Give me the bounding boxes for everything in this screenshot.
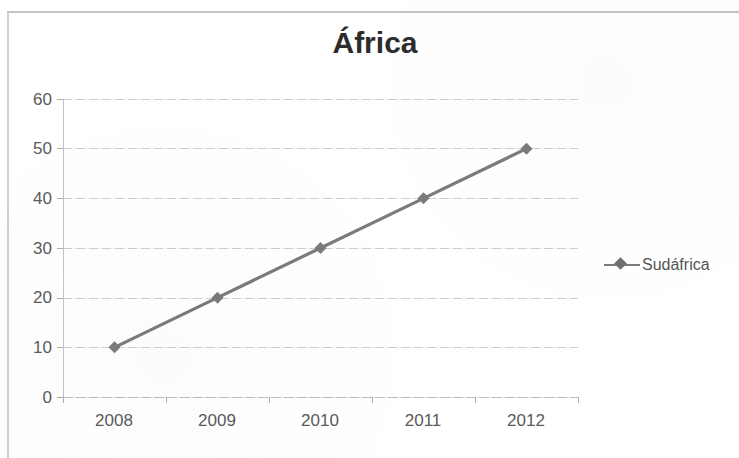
y-tick-10 bbox=[57, 347, 63, 348]
diamond-line-marker-icon bbox=[604, 258, 640, 272]
x-axis-label-2011: 2011 bbox=[383, 411, 463, 431]
x-tick-2 bbox=[269, 397, 270, 403]
x-axis-label-2009: 2009 bbox=[177, 411, 257, 431]
x-tick-0 bbox=[63, 397, 64, 403]
y-axis-label-50: 50 bbox=[12, 139, 52, 159]
x-axis-label-2010: 2010 bbox=[280, 411, 360, 431]
y-axis-label-10: 10 bbox=[12, 338, 52, 358]
chart-legend: Sudáfrica bbox=[604, 256, 710, 274]
y-axis-label-0: 0 bbox=[12, 388, 52, 408]
x-tick-4 bbox=[475, 397, 476, 403]
y-tick-40 bbox=[57, 198, 63, 199]
line-chart: África 60 50 40 30 20 10 0 bbox=[0, 0, 739, 458]
gridline-10 bbox=[63, 347, 578, 348]
y-tick-20 bbox=[57, 298, 63, 299]
y-tick-60 bbox=[57, 99, 63, 100]
x-tick-1 bbox=[166, 397, 167, 403]
y-tick-50 bbox=[57, 148, 63, 149]
y-axis-label-40: 40 bbox=[12, 189, 52, 209]
x-axis-label-2008: 2008 bbox=[74, 411, 154, 431]
y-axis-line bbox=[63, 99, 64, 398]
gridline-60 bbox=[63, 99, 578, 100]
x-tick-5 bbox=[578, 397, 579, 403]
plot-area bbox=[63, 99, 578, 397]
legend-diamond bbox=[614, 257, 627, 270]
chart-screenshot: África 60 50 40 30 20 10 0 bbox=[0, 0, 739, 458]
legend-label-sudafrica: Sudáfrica bbox=[640, 256, 710, 274]
gridline-30 bbox=[63, 248, 578, 249]
chart-title: África bbox=[175, 26, 575, 60]
gridline-20 bbox=[63, 298, 578, 299]
y-tick-30 bbox=[57, 248, 63, 249]
gridline-40 bbox=[63, 198, 578, 199]
y-axis-label-20: 20 bbox=[12, 288, 52, 308]
y-axis-label-30: 30 bbox=[12, 239, 52, 259]
x-tick-3 bbox=[372, 397, 373, 403]
y-axis-label-60: 60 bbox=[12, 90, 52, 110]
gridline-0 bbox=[63, 397, 578, 398]
x-axis-label-2012: 2012 bbox=[486, 411, 566, 431]
gridline-50 bbox=[63, 148, 578, 149]
